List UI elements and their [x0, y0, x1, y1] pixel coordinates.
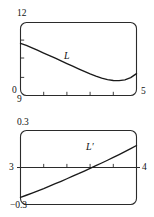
- top-x-max-label: 5: [141, 87, 146, 97]
- curve-L: [21, 43, 137, 80]
- top-x-tick-marks: [44, 92, 114, 96]
- two-panel-plot-figure: 12 0 9 5 L 0.3 −0.3 3 4 L′: [0, 0, 154, 217]
- curve-L-prime-label: L′: [86, 142, 94, 152]
- bottom-x-max-label: 4: [142, 163, 147, 173]
- top-y-max-label: 12: [17, 9, 26, 19]
- top-x-min-label: 9: [17, 95, 22, 105]
- bottom-y-max-label: 0.3: [17, 118, 29, 128]
- curve-L-prime: [21, 146, 137, 198]
- bottom-plot-panel: 0.3 −0.3 3 4 L′: [0, 108, 154, 217]
- top-plot-panel: 12 0 9 5 L: [0, 0, 154, 108]
- top-y-min-label: 0: [12, 86, 17, 96]
- curve-L-label: L: [64, 51, 70, 61]
- bottom-y-min-label: −0.3: [10, 201, 27, 211]
- top-y-tick-marks: [21, 40, 25, 77]
- bottom-x-min-label: 3: [9, 163, 14, 173]
- top-plot-frame: [21, 23, 137, 96]
